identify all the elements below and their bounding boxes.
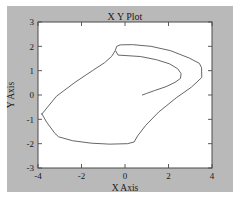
y-tick-label: 0 [30,90,35,100]
axes-background [38,22,212,168]
x-tick-label: -4 [34,171,42,181]
y-tick-label: 1 [30,66,35,76]
x-tick-label: 0 [123,171,128,181]
x-tick-label: 2 [166,171,171,181]
y-tick-label: -3 [27,163,35,173]
x-tick-label: 4 [210,171,215,181]
y-tick-label: 2 [30,42,35,52]
plot-title: X Y Plot [108,11,143,22]
x-tick-label: -2 [78,171,86,181]
x-tick-labels: -4-2024 [34,171,215,181]
y-tick-labels: -3-2-10123 [27,17,35,173]
xy-plot-figure: -4-2024 -3-2-10123 X Y Plot X Axis Y Axi… [0,0,240,199]
y-tick-label: 3 [30,17,35,27]
y-tick-label: -1 [27,115,35,125]
y-axis-title: Y Axis [6,82,16,109]
x-axis-title: X Axis [112,183,139,193]
y-tick-label: -2 [27,139,35,149]
